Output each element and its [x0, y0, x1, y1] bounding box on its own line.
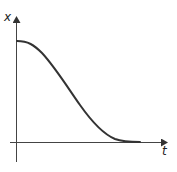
decay-curve	[17, 41, 140, 142]
plot-area	[0, 0, 177, 172]
y-axis-label: x	[4, 11, 11, 23]
x-axis-label: t	[162, 145, 167, 157]
